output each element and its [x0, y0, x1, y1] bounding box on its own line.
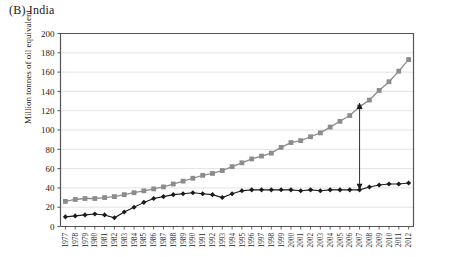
- y-tick-label: 120: [41, 106, 55, 116]
- x-tick-label: 2007: [356, 233, 364, 248]
- data-point-marker: [131, 205, 136, 210]
- x-tick-label: 2012: [405, 233, 413, 248]
- x-tick-label: 2003: [317, 233, 325, 248]
- data-point-marker: [190, 190, 195, 195]
- data-point-marker: [239, 188, 244, 193]
- data-point-marker: [122, 209, 127, 214]
- data-point-marker: [210, 192, 215, 197]
- data-point-marker: [386, 181, 391, 186]
- data-point-marker: [200, 191, 205, 196]
- x-tick-label: 2009: [376, 233, 384, 248]
- data-point-marker: [387, 79, 392, 84]
- x-tick-label: 2010: [386, 233, 394, 248]
- data-point-marker: [220, 168, 225, 173]
- data-point-marker: [318, 188, 323, 193]
- data-point-marker: [230, 191, 235, 196]
- y-tick-label: 40: [46, 183, 56, 193]
- x-tick-label: 1996: [248, 233, 256, 248]
- data-point-marker: [328, 125, 333, 130]
- x-tick-label: 2006: [346, 233, 354, 248]
- data-point-marker: [200, 173, 205, 178]
- data-point-marker: [210, 171, 215, 176]
- x-tick-label: 1982: [111, 233, 119, 248]
- y-tick-label: 140: [41, 87, 55, 97]
- x-tick-label: 1984: [131, 233, 139, 248]
- y-tick-label: 180: [41, 48, 55, 58]
- data-point-marker: [82, 212, 87, 217]
- x-tick-label: 1981: [101, 233, 109, 248]
- y-tick-label: 100: [41, 125, 55, 135]
- x-tick-label: 1998: [268, 233, 276, 248]
- data-point-marker: [240, 160, 245, 165]
- x-tick-label: 1992: [209, 233, 217, 248]
- data-point-marker: [190, 176, 195, 181]
- x-tick-label: 2008: [366, 233, 374, 248]
- data-point-marker: [269, 151, 274, 156]
- data-point-marker: [347, 113, 352, 118]
- x-tick-label: 1983: [121, 233, 129, 248]
- x-tick-label: 1993: [219, 233, 227, 248]
- data-point-marker: [318, 130, 323, 135]
- x-tick-label: 2000: [288, 233, 296, 248]
- data-point-marker: [406, 181, 411, 186]
- data-point-marker: [92, 196, 97, 201]
- data-point-marker: [367, 184, 372, 189]
- y-tick-label: 20: [46, 202, 56, 212]
- data-point-marker: [377, 182, 382, 187]
- data-point-marker: [181, 179, 186, 184]
- data-point-marker: [122, 192, 127, 197]
- data-point-marker: [63, 199, 68, 204]
- x-tick-label: 2005: [337, 233, 345, 248]
- data-point-marker: [259, 154, 264, 159]
- line-chart: 020406080100120140160180200 197719781979…: [0, 0, 451, 257]
- data-point-marker: [396, 181, 401, 186]
- annotation-group: [357, 103, 363, 190]
- data-point-marker: [377, 88, 382, 93]
- y-axis-ticks-group: 020406080100120140160180200: [41, 29, 61, 232]
- y-tick-label: 80: [46, 145, 56, 155]
- data-point-marker: [73, 213, 78, 218]
- x-tick-label: 1994: [229, 233, 237, 248]
- x-tick-label: 1979: [82, 233, 90, 248]
- x-tick-label: 1995: [239, 233, 247, 248]
- data-point-marker: [151, 196, 156, 201]
- data-point-marker: [102, 212, 107, 217]
- x-tick-label: 1986: [150, 233, 158, 248]
- data-point-marker: [396, 69, 401, 74]
- data-point-marker: [141, 188, 146, 193]
- data-point-marker: [338, 119, 343, 124]
- data-point-marker: [367, 98, 372, 103]
- x-tick-label: 1987: [160, 233, 168, 248]
- figure-panel-b-india: (B) India Million tonnes of oil equivale…: [0, 0, 451, 257]
- data-point-marker: [230, 164, 235, 169]
- data-point-marker: [92, 211, 97, 216]
- y-tick-label: 200: [41, 29, 55, 39]
- y-tick-label: 0: [50, 222, 55, 232]
- x-tick-label: 1997: [258, 233, 266, 248]
- data-point-marker: [249, 157, 254, 162]
- x-tick-label: 1991: [199, 233, 207, 248]
- data-point-marker: [171, 182, 176, 187]
- x-tick-label: 2004: [327, 233, 335, 248]
- data-point-marker: [181, 191, 186, 196]
- data-point-marker: [171, 192, 176, 197]
- data-point-marker: [83, 196, 88, 201]
- x-tick-label: 1999: [278, 233, 286, 248]
- y-tick-label: 60: [46, 164, 56, 174]
- series-group: [63, 57, 411, 220]
- data-point-marker: [73, 197, 78, 202]
- data-point-marker: [308, 134, 313, 139]
- data-point-marker: [63, 214, 68, 219]
- data-point-marker: [220, 195, 225, 200]
- data-point-marker: [279, 145, 284, 150]
- x-tick-label: 1980: [91, 233, 99, 248]
- data-point-marker: [298, 188, 303, 193]
- y-tick-label: 160: [41, 67, 55, 77]
- data-point-marker: [141, 200, 146, 205]
- x-axis-ticks-group: 1977197819791980198119821983198419851986…: [62, 227, 413, 248]
- series-line: [65, 60, 408, 202]
- x-tick-label: 2001: [297, 233, 305, 248]
- data-point-marker: [406, 57, 411, 62]
- data-point-marker: [161, 185, 166, 190]
- data-point-marker: [102, 195, 107, 200]
